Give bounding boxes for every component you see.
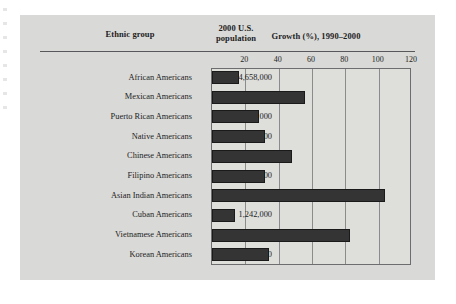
header-rule-right [215,51,415,52]
bar-growth [212,170,265,183]
x-tick-label-80: 80 [340,55,348,64]
chart-row: Chinese Americans2,433,000 [20,147,435,167]
x-tick-label-40: 40 [274,55,282,64]
x-tick-label-120: 120 [405,55,417,64]
bar-growth [212,209,235,222]
chart-header: Ethnic group 2000 U.S. population Growth… [20,15,435,49]
row-label-ethnic-group: Asian Indian Americans [30,191,192,200]
chart-row: Mexican Americans20,641,000 [20,88,435,108]
x-tick-label-20: 20 [240,55,248,64]
x-tick-label-100: 100 [372,55,384,64]
bar-growth [212,71,239,84]
row-label-ethnic-group: Chinese Americans [30,151,192,160]
chart-row: Native Americans2,476,000 [20,127,435,147]
bar-growth [212,189,385,202]
column-header-growth: Growth (%), 1990–2000 [216,31,416,41]
row-label-ethnic-group: Korean Americans [30,250,192,259]
bar-growth [212,150,292,163]
bar-growth [212,229,350,242]
row-label-ethnic-group: Filipino Americans [30,171,192,180]
row-label-ethnic-group: Native Americans [30,132,192,141]
chart-row: Vietnamese Americans1,123,000 [20,226,435,246]
chart-row: African Americans34,658,000 [20,68,435,88]
chart-row: Cuban Americans1,242,000 [20,206,435,226]
bar-growth [212,110,259,123]
chart-row: Filipino Americans1,850,000 [20,167,435,187]
bar-growth [212,248,269,261]
x-axis-tick-labels: 20406080100120 [20,55,435,67]
chart-row: Puerto Rican Americans3,406,000 [20,107,435,127]
figure-panel: Ethnic group 2000 U.S. population Growth… [20,15,435,280]
chart-rows: African Americans34,658,000Mexican Ameri… [20,68,435,265]
x-tick-label-60: 60 [307,55,315,64]
chart-row: Korean Americans1,077,000 [20,245,435,265]
bar-growth [212,91,305,104]
row-label-ethnic-group: Cuban Americans [30,210,192,219]
scan-artifacts [3,8,9,123]
row-label-ethnic-group: Vietnamese Americans [30,230,192,239]
row-label-ethnic-group: Mexican Americans [30,92,192,101]
row-label-ethnic-group: Puerto Rican Americans [30,112,192,121]
column-header-ethnic-group: Ethnic group [60,29,200,39]
row-label-ethnic-group: African Americans [30,73,192,82]
chart-row: Asian Indian Americans1,679,000 [20,186,435,206]
bar-growth [212,130,265,143]
